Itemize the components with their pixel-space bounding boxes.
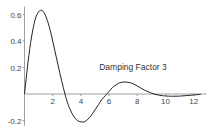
y-tick-label: 0.2 — [10, 64, 22, 73]
annotations: Damping Factor 3 — [99, 62, 167, 72]
x-tick-label: 2 — [50, 97, 55, 106]
x-tick-label: 12 — [189, 97, 198, 106]
x-tick-label: 10 — [161, 97, 170, 106]
y-tick-label: -0.2 — [8, 117, 22, 126]
series-annotation-label: Damping Factor 3 — [99, 62, 167, 72]
x-tick-label: 8 — [135, 97, 140, 106]
line-chart: -0.20.20.40.6 24681012 Damping Factor 3 — [0, 0, 216, 132]
y-tick-label: 0.6 — [10, 11, 22, 20]
chart-container: -0.20.20.40.6 24681012 Damping Factor 3 — [0, 0, 216, 132]
y-tick-label: 0.4 — [10, 37, 22, 46]
x-tick-label: 4 — [79, 97, 84, 106]
y-axis: -0.20.20.40.6 — [8, 7, 25, 126]
x-tick-label: 6 — [107, 97, 112, 106]
